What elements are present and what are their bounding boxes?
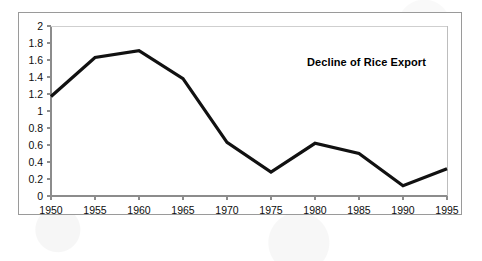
x-axis-label-1975: 1975 [249,205,293,216]
y-axis-label-1: 1 [12,106,43,117]
y-axis-label-1.8: 1.8 [12,38,43,49]
chart-figure: 00.20.40.60.811.21.41.61.82 195019551960… [0,0,482,261]
y-axis-label-1.4: 1.4 [12,72,43,83]
line-chart-plot [0,0,482,261]
y-axis-label-0.4: 0.4 [12,157,43,168]
y-axis-label-0.2: 0.2 [12,174,43,185]
x-axis-label-1990: 1990 [381,205,425,216]
x-axis-label-1970: 1970 [205,205,249,216]
x-axis-label-1955: 1955 [73,205,117,216]
x-axis-label-1960: 1960 [117,205,161,216]
y-axis-label-2: 2 [12,21,43,32]
x-axis-label-1980: 1980 [293,205,337,216]
y-axis-label-1.6: 1.6 [12,55,43,66]
x-axis-label-1950: 1950 [29,205,73,216]
chart-title: Decline of Rice Export [307,56,426,68]
y-axis-label-0: 0 [12,191,43,202]
x-axis-label-1985: 1985 [337,205,381,216]
y-axis-label-1.2: 1.2 [12,89,43,100]
x-axis-label-1965: 1965 [161,205,205,216]
axes-group [51,26,447,196]
x-axis-label-1995: 1995 [425,205,469,216]
y-axis-label-0.8: 0.8 [12,123,43,134]
y-axis-label-0.6: 0.6 [12,140,43,151]
data-series-line [51,51,447,186]
